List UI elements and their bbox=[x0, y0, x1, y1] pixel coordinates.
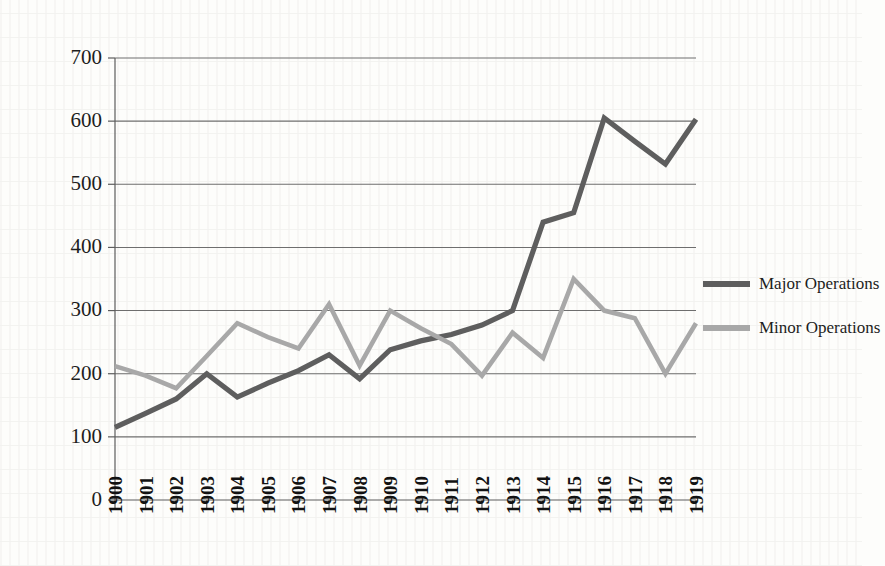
x-tick-label-1907: 1907 bbox=[319, 476, 340, 515]
y-tick-label-600: 600 bbox=[71, 108, 103, 132]
x-tick-label-1915: 1915 bbox=[564, 476, 585, 514]
x-tick-label-1919: 1919 bbox=[686, 476, 707, 514]
data-series-group bbox=[115, 118, 696, 427]
y-tick-label-700: 700 bbox=[71, 45, 103, 69]
x-tick-label-1908: 1908 bbox=[350, 476, 371, 514]
x-tick-label-1900: 1900 bbox=[105, 476, 126, 514]
x-tick-label-1914: 1914 bbox=[533, 476, 554, 515]
x-tick-label-1912: 1912 bbox=[472, 476, 493, 514]
chart-legend: Major OperationsMinor Operations bbox=[703, 274, 880, 337]
x-axis-tick-labels: 1900190119021903190419051906190719081909… bbox=[105, 476, 707, 515]
x-tick-label-1906: 1906 bbox=[288, 476, 309, 514]
x-tick-label-1901: 1901 bbox=[136, 476, 157, 514]
y-tick-label-300: 300 bbox=[71, 297, 103, 321]
y-tick-label-400: 400 bbox=[71, 234, 103, 258]
line-chart-figure: 0100200300400500600700 19001901190219031… bbox=[40, 16, 885, 566]
x-tick-label-1904: 1904 bbox=[227, 476, 248, 515]
x-tick-label-1909: 1909 bbox=[380, 476, 401, 514]
legend-label-major-operations: Major Operations bbox=[759, 274, 879, 293]
y-tick-label-200: 200 bbox=[71, 361, 103, 385]
x-tick-label-1910: 1910 bbox=[411, 476, 432, 514]
y-tick-label-0: 0 bbox=[92, 487, 103, 511]
x-tick-label-1902: 1902 bbox=[166, 476, 187, 514]
legend-label-minor-operations: Minor Operations bbox=[759, 318, 880, 337]
x-tick-label-1918: 1918 bbox=[655, 476, 676, 514]
x-tick-label-1913: 1913 bbox=[503, 476, 524, 514]
y-tick-label-500: 500 bbox=[71, 171, 103, 195]
x-tick-label-1903: 1903 bbox=[197, 476, 218, 514]
series-line-minor-operations bbox=[115, 279, 696, 388]
x-tick-label-1911: 1911 bbox=[441, 477, 462, 514]
chart-plot-area: 0100200300400500600700 19001901190219031… bbox=[40, 16, 885, 566]
series-line-major-operations bbox=[115, 118, 696, 427]
y-axis-tick-marks bbox=[108, 58, 115, 500]
y-tick-label-100: 100 bbox=[71, 424, 103, 448]
x-tick-label-1917: 1917 bbox=[625, 476, 646, 515]
x-tick-label-1916: 1916 bbox=[594, 476, 615, 514]
y-axis-tick-labels: 0100200300400500600700 bbox=[71, 45, 103, 511]
x-tick-label-1905: 1905 bbox=[258, 476, 279, 514]
